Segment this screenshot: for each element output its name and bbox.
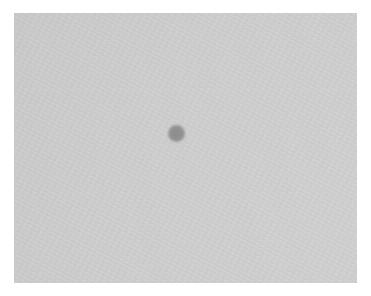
solar-disc bbox=[14, 13, 357, 283]
photo-frame: Planetary transit across the solar disc bbox=[14, 13, 357, 283]
transiting-planet bbox=[168, 125, 185, 142]
page-root: Planetary transit across the solar disc bbox=[0, 0, 371, 296]
